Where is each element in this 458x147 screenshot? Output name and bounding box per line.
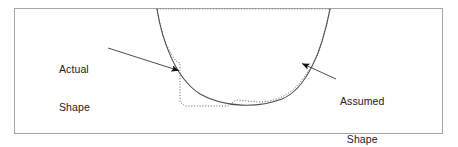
actual-shape-label: Actual Shape xyxy=(59,38,90,138)
figure-canvas: Actual Shape Assumed Shape xyxy=(0,0,458,147)
assumed-shape-label: Assumed Shape xyxy=(340,70,384,147)
assumed-shape-label-line1: Assumed xyxy=(340,95,384,108)
actual-shape-curve xyxy=(157,9,330,106)
assumed-shape-label-line2: Shape xyxy=(340,133,384,146)
assumed-shape-leader-arrow xyxy=(302,63,336,79)
actual-shape-label-line1: Actual xyxy=(59,63,90,76)
actual-shape-label-line2: Shape xyxy=(59,101,90,114)
assumed-shape-curve xyxy=(157,9,330,105)
